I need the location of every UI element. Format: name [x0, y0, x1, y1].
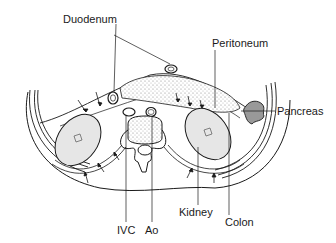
label-kidney: Kidney: [179, 207, 213, 218]
ivc-shape: [123, 108, 135, 116]
pancreas-shape: [120, 76, 240, 113]
label-colon: Colon: [225, 217, 254, 228]
label-duodenum: Duodenum: [63, 14, 117, 25]
label-aorta: Ao: [145, 225, 158, 236]
duodenum-loop-left: [108, 92, 118, 104]
aorta-shape: [146, 108, 156, 117]
label-pancreas: Pancreas: [277, 106, 323, 117]
duodenum-loop-right: [165, 65, 177, 73]
label-ivc: IVC: [117, 225, 135, 236]
colon-shape: [244, 101, 264, 124]
label-peritoneum: Peritoneum: [212, 38, 268, 49]
abdominal-cross-section-diagram: Duodenum Peritoneum Pancreas IVC Ao Kidn…: [0, 0, 336, 243]
left-kidney-shape: [46, 106, 111, 175]
diagram-drawing: [0, 0, 336, 243]
vertebra-shape: [121, 116, 166, 172]
